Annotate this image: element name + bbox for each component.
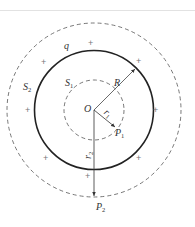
plus-sign: + [25, 105, 30, 115]
r1-label: r1 [101, 106, 114, 120]
p2-label: P2 [95, 201, 105, 213]
r2-label: r2 [82, 152, 94, 159]
center-label: O [84, 103, 91, 114]
plus-sign: + [85, 171, 90, 181]
radius-label: R [113, 77, 120, 88]
radius-arrow [94, 69, 135, 110]
gauss-diagram: q O R S1 S2 r1 r2 P1 P2 + + + + + + + + [0, 0, 195, 227]
plus-sign: + [43, 153, 48, 163]
charge-label: q [64, 40, 69, 51]
plus-sign: + [88, 38, 93, 48]
inner-surface-label: S1 [65, 77, 73, 89]
plus-sign: + [41, 57, 46, 67]
outer-surface-label: S2 [23, 81, 31, 93]
p1-label: P1 [114, 127, 124, 139]
plus-sign: + [153, 105, 158, 115]
plus-sign: + [136, 56, 141, 66]
plus-sign: + [136, 153, 141, 163]
